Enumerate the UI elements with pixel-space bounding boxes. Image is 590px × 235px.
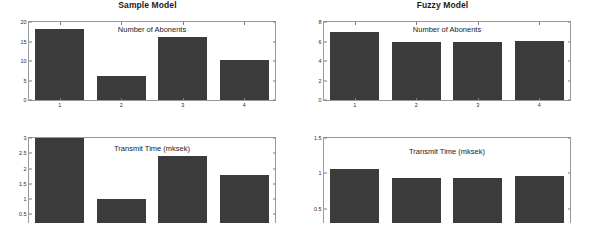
y-axis-tick-mark <box>324 138 327 139</box>
y-axis-tick-label: 1.5 <box>314 135 322 141</box>
x-axis-tick-mark <box>121 98 122 101</box>
y-axis-tick-mark <box>273 183 276 184</box>
bar <box>453 178 502 223</box>
y-axis-tick-label: 1 <box>319 170 322 176</box>
x-axis-tick-mark <box>121 22 122 25</box>
x-axis-tick-label: 2 <box>415 102 418 108</box>
bar <box>515 41 564 100</box>
y-axis-tick-mark <box>273 153 276 154</box>
bar <box>330 169 379 223</box>
y-axis-tick-label: 4 <box>319 58 322 64</box>
y-axis-tick-label: 2 <box>24 166 27 172</box>
plot-area-fuzzy-model-transmit-time: Transmit Time (mksek) 0.511.5 <box>323 137 571 223</box>
x-axis-tick-label: 1 <box>58 102 61 108</box>
y-axis-tick-mark <box>273 199 276 200</box>
y-axis-tick-label: 10 <box>21 58 27 64</box>
panel-sample-model-abonents: Sample Model Number of Abonents 05101520… <box>0 0 295 120</box>
y-axis-tick-mark <box>29 138 32 139</box>
panel-fuzzy-model-abonents: Fuzzy Model Number of Abonents 024681234 <box>295 0 590 120</box>
y-axis-tick-mark <box>568 22 571 23</box>
panel-sample-model-transmit-time: Transmit Time (mksek) 0.511.522.53 <box>0 120 295 235</box>
y-axis-tick-mark <box>324 208 327 209</box>
y-axis-tick-mark <box>324 173 327 174</box>
x-axis-tick-mark <box>183 22 184 25</box>
x-axis-tick-mark <box>60 22 61 25</box>
y-axis-tick-mark <box>273 80 276 81</box>
y-axis-tick-mark <box>273 214 276 215</box>
figure-canvas: Sample Model Number of Abonents 05101520… <box>0 0 590 235</box>
y-axis-tick-label: 8 <box>319 19 322 25</box>
x-axis-tick-mark <box>244 22 245 25</box>
y-axis-tick-mark <box>273 138 276 139</box>
bar <box>35 138 84 223</box>
bar <box>220 175 269 223</box>
y-axis-tick-label: 0 <box>319 97 322 103</box>
y-axis-tick-mark <box>568 100 571 101</box>
y-axis-tick-label: 15 <box>21 39 27 45</box>
x-axis-tick-label: 3 <box>181 102 184 108</box>
bar-series-sample-abonents <box>29 22 275 100</box>
x-axis-tick-label: 1 <box>353 102 356 108</box>
y-axis-tick-mark <box>29 183 32 184</box>
y-axis-tick-mark <box>29 61 32 62</box>
y-axis-tick-mark <box>29 199 32 200</box>
y-axis-tick-mark <box>568 208 571 209</box>
y-axis-tick-mark <box>568 138 571 139</box>
y-axis-tick-label: 3 <box>24 135 27 141</box>
y-axis-tick-label: 1.5 <box>19 181 27 187</box>
x-axis-tick-mark <box>416 98 417 101</box>
bar <box>35 29 84 100</box>
plot-area-fuzzy-model-abonents: Number of Abonents 024681234 <box>323 21 571 101</box>
bar <box>97 76 146 100</box>
panel-title-sample-model: Sample Model <box>0 0 295 10</box>
y-axis-tick-label: 0.5 <box>19 211 27 217</box>
bar <box>515 176 564 223</box>
x-axis-tick-label: 4 <box>243 102 246 108</box>
y-axis-tick-label: 5 <box>24 78 27 84</box>
y-axis-tick-mark <box>273 100 276 101</box>
y-axis-tick-label: 2 <box>319 78 322 84</box>
bar <box>97 199 146 223</box>
y-axis-tick-mark <box>29 153 32 154</box>
x-axis-tick-mark <box>539 98 540 101</box>
plot-area-sample-model-abonents: Number of Abonents 051015201234 <box>28 21 276 101</box>
y-axis-tick-mark <box>29 41 32 42</box>
y-axis-tick-label: 0 <box>24 97 27 103</box>
y-axis-tick-mark <box>324 61 327 62</box>
bar-series-fuzzy-transmit-time <box>324 138 570 223</box>
y-axis-tick-label: 2.5 <box>19 150 27 156</box>
y-axis-tick-label: 6 <box>319 39 322 45</box>
bar <box>330 32 379 100</box>
y-axis-tick-mark <box>324 22 327 23</box>
bar <box>392 42 441 101</box>
x-axis-tick-mark <box>539 22 540 25</box>
bar-series-fuzzy-abonents <box>324 22 570 100</box>
y-axis-tick-mark <box>324 100 327 101</box>
panel-title-fuzzy-model: Fuzzy Model <box>295 0 590 10</box>
x-axis-tick-mark <box>60 98 61 101</box>
bar <box>220 60 269 100</box>
y-axis-tick-mark <box>324 80 327 81</box>
x-axis-tick-mark <box>416 22 417 25</box>
y-axis-tick-mark <box>273 61 276 62</box>
y-axis-tick-mark <box>29 80 32 81</box>
x-axis-tick-mark <box>478 22 479 25</box>
x-axis-tick-mark <box>355 98 356 101</box>
x-axis-tick-mark <box>478 98 479 101</box>
y-axis-tick-mark <box>568 173 571 174</box>
y-axis-tick-label: 1 <box>24 196 27 202</box>
x-axis-tick-mark <box>244 98 245 101</box>
y-axis-tick-mark <box>324 41 327 42</box>
bar-series-sample-transmit-time <box>29 138 275 223</box>
y-axis-tick-mark <box>568 61 571 62</box>
x-axis-tick-label: 2 <box>120 102 123 108</box>
y-axis-tick-mark <box>29 214 32 215</box>
x-axis-tick-mark <box>183 98 184 101</box>
y-axis-tick-mark <box>273 41 276 42</box>
y-axis-tick-mark <box>29 168 32 169</box>
y-axis-tick-mark <box>568 80 571 81</box>
plot-area-sample-model-transmit-time: Transmit Time (mksek) 0.511.522.53 <box>28 137 276 223</box>
y-axis-tick-label: 0.5 <box>314 206 322 212</box>
bar <box>453 42 502 101</box>
y-axis-tick-mark <box>273 168 276 169</box>
